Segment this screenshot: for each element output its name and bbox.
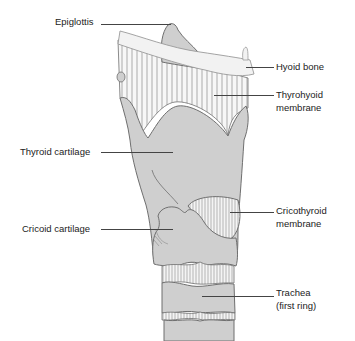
label-cricoid-cartilage: Cricoid cartilage (22, 223, 90, 235)
leader-hyoid-bone (246, 67, 274, 68)
tracheal-annular-ligament (162, 312, 235, 320)
trachea-second-ring (164, 320, 234, 341)
larynx-diagram: Epiglottis Hyoid bone Thyrohyoid membran… (0, 0, 355, 341)
leader-thyrohyoid-membrane (214, 95, 274, 96)
label-trachea-line2: (first ring) (276, 300, 316, 312)
label-hyoid-bone: Hyoid bone (276, 61, 324, 73)
leader-cricothyroid-membrane (230, 212, 274, 213)
label-cricothyroid-line1: Cricothyroid (276, 205, 327, 217)
trachea-first-ring (162, 282, 235, 313)
label-thyrohyoid-line2: membrane (276, 102, 321, 114)
label-cricothyroid-line2: membrane (276, 218, 321, 230)
leader-trachea (202, 296, 274, 297)
label-epiglottis: Epiglottis (55, 16, 94, 28)
cricotracheal-ligament (162, 262, 234, 284)
leader-thyroid-cartilage (101, 152, 173, 153)
label-trachea-line1: Trachea (276, 287, 311, 299)
leader-cricoid-cartilage (101, 229, 173, 230)
label-thyrohyoid-line1: Thyrohyoid (276, 89, 323, 101)
label-thyroid-cartilage: Thyroid cartilage (20, 146, 90, 158)
hyoid-horn (243, 47, 248, 60)
leader-epiglottis (101, 24, 171, 25)
triticeal-cartilage (117, 72, 125, 82)
